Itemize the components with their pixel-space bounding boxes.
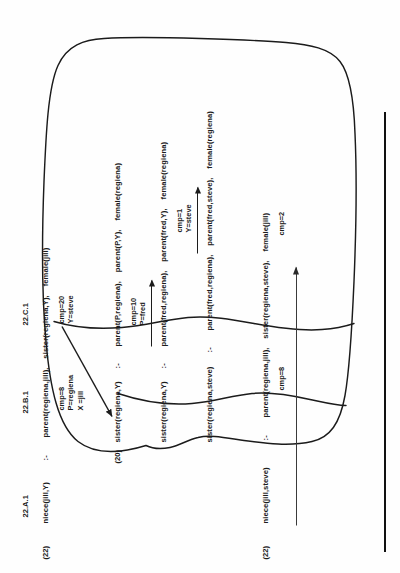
clause-2-body: parent(P,regiena), parent(P,Y), female(r… <box>114 162 122 346</box>
resolution-arrow-p-fred <box>151 280 152 346</box>
clause-3-head: sister(regiena,Y) <box>160 381 168 442</box>
clause-3-neck: :- <box>160 363 168 368</box>
clause-2-head: sister(regiena,Y) <box>114 381 122 442</box>
annotation-cmp-1-y-steve: cmp=1 Y=steve <box>175 204 194 232</box>
annotation-cmp-8: cmp=8 <box>277 366 286 390</box>
annotation-cmp-10-p-fred: cmp=10 P=fred <box>129 297 148 325</box>
derivation-arrow-long <box>296 267 297 525</box>
goal-mark-22-bottom: (22) <box>262 545 270 559</box>
clause-4-body: parent(fred,regiena), parent(fred,steve)… <box>206 111 214 330</box>
clause-5-body: parent(regiena,jill), sister(regiena,ste… <box>262 212 270 417</box>
clause-4-neck: :- <box>206 347 214 352</box>
resolution-arrow-y-steve <box>197 187 198 253</box>
scanned-page: 22.A.1 22.B.1 22.C.1 (22) niece(jill,Y) … <box>0 0 400 573</box>
clause-5-head: niece(jill,steve) <box>262 467 270 523</box>
clause-4-head: sister(regiena,steve) <box>206 366 214 442</box>
rotated-sheet: 22.A.1 22.B.1 22.C.1 (22) niece(jill,Y) … <box>0 0 400 573</box>
step-mark-20: (20) <box>114 449 122 463</box>
annotation-cmp-2: cmp=2 <box>277 211 286 235</box>
clause-3-body: parent(fred,regiena), parent(fred,Y), fe… <box>160 141 168 346</box>
resolution-arrow-slanted <box>0 0 400 573</box>
clause-5-neck: :- <box>262 435 270 440</box>
clause-2-neck: :- <box>114 363 122 368</box>
